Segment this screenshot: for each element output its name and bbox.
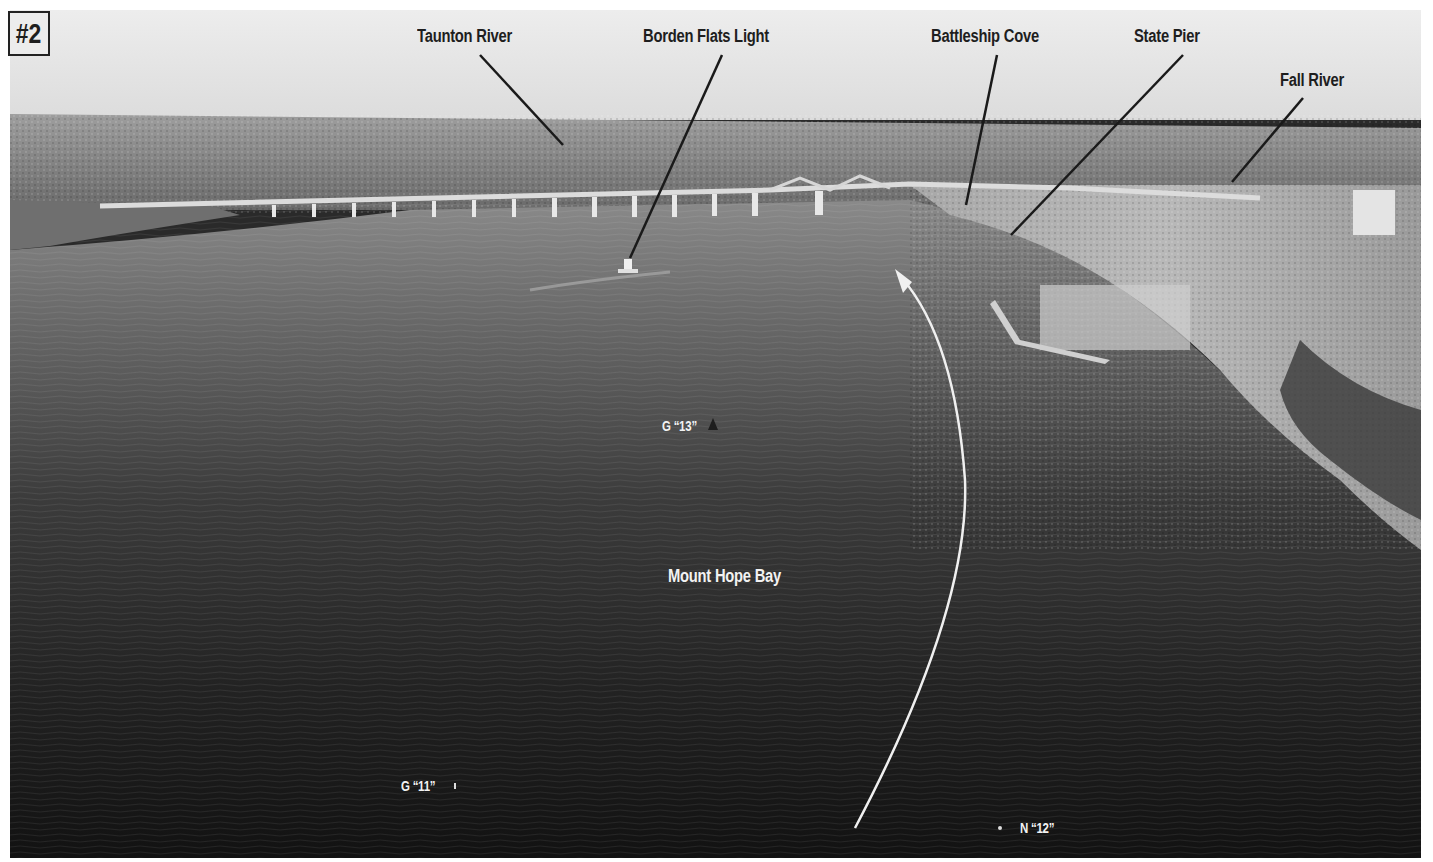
- photo-scene: [10, 10, 1421, 858]
- callout-state-pier: State Pier: [1134, 26, 1200, 47]
- label-buoy-n12: N “12”: [1020, 820, 1054, 836]
- callout-battleship-cove: Battleship Cove: [931, 26, 1039, 47]
- marina-docks: [1040, 285, 1190, 350]
- plate-number-text: #2: [16, 18, 42, 50]
- callout-borden-flats-light: Borden Flats Light: [643, 26, 769, 47]
- callout-fall-river: Fall River: [1280, 70, 1344, 91]
- label-mount-hope-bay: Mount Hope Bay: [668, 566, 781, 587]
- label-buoy-g13: G “13”: [662, 418, 697, 434]
- aerial-photograph: [10, 10, 1421, 858]
- label-buoy-g11: G “11”: [401, 778, 435, 794]
- tall-building: [1353, 190, 1395, 235]
- callout-taunton-river: Taunton River: [417, 26, 512, 47]
- buoy-n12-marker: [998, 826, 1002, 830]
- buoy-g11-marker: [454, 783, 456, 789]
- plate-number-badge: #2: [8, 11, 50, 56]
- city-texture: [910, 185, 1421, 550]
